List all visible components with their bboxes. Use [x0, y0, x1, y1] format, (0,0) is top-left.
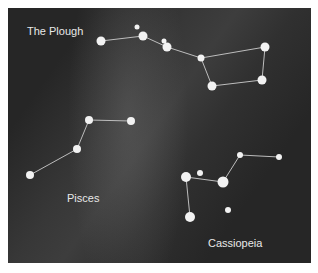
label-the-plough: The Plough [27, 26, 83, 37]
the-plough-line [101, 36, 143, 41]
the-plough-star-icon [198, 55, 205, 62]
the-plough-star-icon [258, 76, 267, 85]
constellation-map [0, 0, 318, 273]
the-plough-star-icon [97, 37, 106, 46]
the-plough-line [262, 47, 265, 80]
pisces-line [77, 120, 89, 149]
cassiopeia-star-icon [218, 177, 229, 188]
pisces-star-icon [73, 145, 81, 153]
the-plough-star-icon [163, 43, 172, 52]
label-cassiopeia: Cassiopeia [208, 238, 262, 249]
the-plough-star-icon [139, 32, 148, 41]
the-plough-line [201, 58, 212, 86]
cassiopeia-star-icon [276, 154, 282, 160]
pisces-star-icon [127, 117, 135, 125]
the-plough-star-icon [208, 82, 217, 91]
pisces-line [30, 149, 77, 175]
cassiopeia-star-icon [225, 207, 231, 213]
label-pisces: Pisces [67, 193, 99, 204]
cassiopeia-line [240, 155, 279, 157]
cassiopeia-star-icon [197, 170, 203, 176]
pisces-star-icon [85, 116, 93, 124]
pisces-star-icon [26, 171, 34, 179]
constellation-stars [26, 25, 282, 223]
cassiopeia-line [186, 177, 190, 217]
the-plough-line [167, 47, 201, 58]
cassiopeia-star-icon [237, 152, 243, 158]
the-plough-line [201, 47, 265, 58]
the-plough-star-icon [135, 25, 140, 30]
cassiopeia-star-icon [185, 212, 195, 222]
the-plough-star-icon [261, 43, 270, 52]
the-plough-line [212, 80, 262, 86]
cassiopeia-line [186, 177, 223, 182]
pisces-line [89, 120, 131, 121]
constellation-lines [30, 36, 279, 217]
cassiopeia-star-icon [181, 172, 191, 182]
